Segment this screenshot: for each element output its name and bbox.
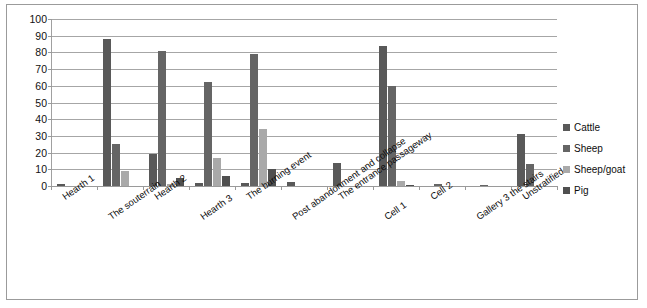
x-axis-tick-mark — [557, 186, 558, 190]
x-axis-tick-mark — [189, 186, 190, 190]
bar — [213, 158, 221, 186]
y-axis-tick-label: 60 — [11, 81, 47, 91]
bar — [103, 39, 111, 186]
bar-group — [511, 19, 557, 186]
bar-group — [51, 19, 97, 186]
y-axis-tick-label: 100 — [11, 14, 47, 24]
legend-swatch-icon — [563, 187, 570, 194]
y-axis-tick-mark — [48, 153, 52, 154]
y-axis-tick-mark — [48, 19, 52, 20]
bar — [121, 171, 129, 186]
y-axis-tick-mark — [48, 119, 52, 120]
legend-label: Cattle — [574, 122, 600, 133]
legend-item[interactable]: Sheep/goat — [563, 159, 637, 180]
chart-legend: CattleSheepSheep/goatPig — [563, 117, 637, 201]
legend-swatch-icon — [563, 124, 570, 131]
x-axis-category-label: Hearth 3 — [198, 192, 234, 222]
x-axis-tick-mark — [235, 186, 236, 190]
y-axis-labels: 1009080706050403020100 — [7, 5, 47, 205]
bar-group — [97, 19, 143, 186]
y-axis-tick-mark — [48, 69, 52, 70]
y-axis-tick-label: 0 — [11, 181, 47, 191]
y-axis-tick-mark — [48, 103, 52, 104]
bar — [222, 176, 230, 186]
y-axis-tick-label: 20 — [11, 148, 47, 158]
y-axis-tick-mark — [48, 36, 52, 37]
bar-group — [143, 19, 189, 186]
bar-group — [419, 19, 465, 186]
legend-label: Sheep/goat — [574, 164, 625, 175]
bar-group — [465, 19, 511, 186]
x-axis-tick-mark — [465, 186, 466, 190]
legend-label: Pig — [574, 185, 588, 196]
y-axis-tick-label: 80 — [11, 47, 47, 57]
x-axis-tick-mark — [281, 186, 282, 190]
legend-label: Sheep — [574, 143, 603, 154]
bar — [388, 86, 396, 186]
y-axis-tick-label: 40 — [11, 114, 47, 124]
y-axis-tick-label: 10 — [11, 164, 47, 174]
y-axis-tick-label: 30 — [11, 131, 47, 141]
legend-item[interactable]: Sheep — [563, 138, 637, 159]
bar — [158, 51, 166, 186]
y-axis-tick-mark — [48, 136, 52, 137]
legend-item[interactable]: Pig — [563, 180, 637, 201]
x-axis-tick-mark — [373, 186, 374, 190]
y-axis-tick-label: 90 — [11, 31, 47, 41]
y-axis-tick-mark — [48, 169, 52, 170]
bar — [112, 144, 120, 186]
y-axis-tick-mark — [48, 86, 52, 87]
chart-container: 1009080706050403020100 Hearth 1The soute… — [6, 4, 638, 300]
bar — [250, 54, 258, 186]
x-axis-category-label: Cell 1 — [382, 199, 408, 222]
x-axis-labels: Hearth 1The souterrainHearth 2Hearth 3Th… — [7, 191, 639, 301]
legend-swatch-icon — [563, 166, 570, 173]
legend-item[interactable]: Cattle — [563, 117, 637, 138]
x-axis-tick-mark — [97, 186, 98, 190]
y-axis-tick-mark — [48, 52, 52, 53]
bar-group — [235, 19, 281, 186]
bar — [204, 82, 212, 186]
y-axis-tick-mark — [48, 186, 52, 187]
x-axis-tick-mark — [419, 186, 420, 190]
y-axis-tick-label: 50 — [11, 98, 47, 108]
bar-group — [189, 19, 235, 186]
y-axis-tick-label: 70 — [11, 64, 47, 74]
legend-swatch-icon — [563, 145, 570, 152]
